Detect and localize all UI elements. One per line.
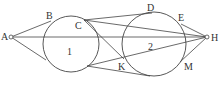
label-a: A <box>1 31 9 42</box>
label-m: M <box>184 61 193 72</box>
segment-a-lower-tangent <box>11 37 46 60</box>
label-k: K <box>118 61 126 72</box>
label-circle-1: 1 <box>67 46 72 57</box>
point-a-marker <box>9 35 13 39</box>
segment-c-d <box>84 13 152 20</box>
segment-c-h <box>84 20 207 37</box>
label-b: B <box>46 10 53 21</box>
segment-c-k <box>84 20 124 59</box>
label-circle-2: 2 <box>148 41 153 52</box>
circle-1 <box>43 16 99 72</box>
label-d: D <box>147 2 154 13</box>
geometry-diagram: A B C D E H K M 1 2 <box>0 0 223 87</box>
label-h: H <box>211 32 218 43</box>
label-e: E <box>178 12 184 23</box>
label-c: C <box>75 20 82 31</box>
segment-h-m <box>180 37 207 62</box>
point-h-marker <box>205 35 209 39</box>
